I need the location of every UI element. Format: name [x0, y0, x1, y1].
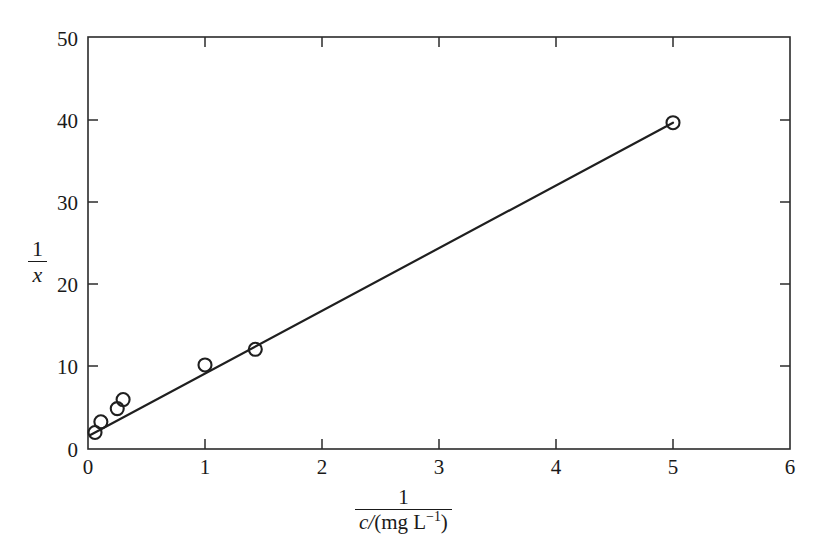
- y-axis-label-numerator: 1: [28, 238, 47, 261]
- y-axis-ticks-right: [780, 120, 790, 366]
- x-axis-label: 1 c/(mg L−1): [355, 487, 452, 533]
- x-tick-label: 1: [200, 455, 211, 479]
- y-tick-label: 40: [57, 109, 78, 133]
- x-axis-label-denominator: c/(mg L−1): [355, 510, 452, 533]
- fit-line-group: [90, 123, 673, 435]
- unit-exponent: −1: [426, 509, 441, 524]
- x-tick-label: 2: [317, 455, 328, 479]
- y-axis-ticks-left: [88, 120, 98, 366]
- plot-canvas: 0 1 2 3 4 5 6 0 10 20 30 40 50: [0, 0, 829, 549]
- best-fit-line: [90, 123, 673, 435]
- unit-open: (mg L: [374, 510, 426, 534]
- y-tick-label: 0: [68, 438, 79, 462]
- concentration-symbol: c: [359, 510, 368, 534]
- x-axis-tick-labels: 0 1 2 3 4 5 6: [83, 455, 796, 479]
- x-tick-label: 6: [785, 455, 796, 479]
- x-axis-ticks-bottom: [205, 439, 673, 449]
- data-point: [199, 358, 212, 371]
- y-tick-label: 30: [57, 191, 78, 215]
- x-axis-label-numerator: 1: [355, 487, 452, 509]
- y-axis-tick-labels: 0 10 20 30 40 50: [57, 27, 78, 462]
- unit-close: ): [441, 510, 448, 534]
- x-tick-label: 4: [551, 455, 562, 479]
- chart-figure: 0 1 2 3 4 5 6 0 10 20 30 40 50 1 x: [0, 0, 829, 549]
- y-tick-label: 50: [57, 27, 78, 51]
- data-point: [94, 415, 107, 428]
- x-tick-label: 5: [668, 455, 679, 479]
- x-axis-ticks-top: [205, 37, 673, 47]
- plot-frame: [88, 37, 790, 449]
- y-tick-label: 10: [57, 355, 78, 379]
- y-tick-label: 20: [57, 273, 78, 297]
- x-tick-label: 3: [434, 455, 445, 479]
- x-tick-label: 0: [83, 455, 94, 479]
- y-axis-label: 1 x: [28, 238, 47, 286]
- y-axis-label-denominator: x: [28, 262, 47, 286]
